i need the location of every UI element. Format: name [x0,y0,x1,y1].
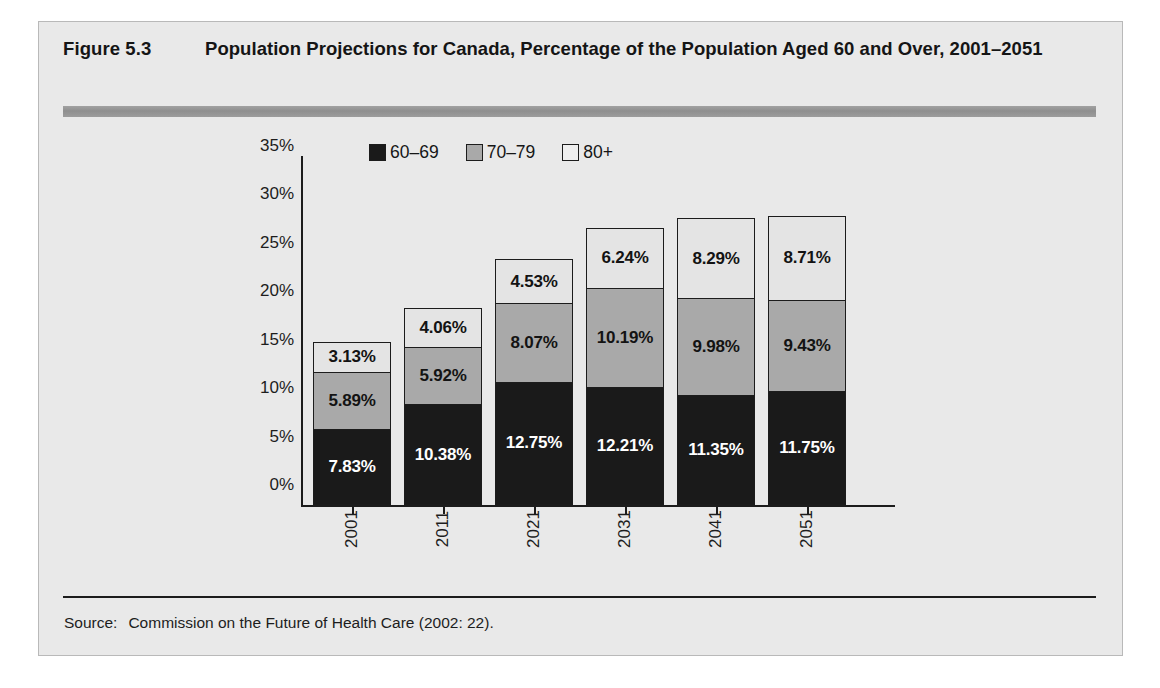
bar-value-label: 7.83% [328,457,375,477]
bar-segment: 10.38% [404,404,482,505]
y-axis-tick-label: 15% [260,330,294,350]
bar-segment: 8.71% [768,216,846,300]
bar-segment: 9.43% [768,300,846,391]
y-axis-line [301,156,303,505]
legend-swatch-icon [466,144,483,161]
bar-value-label: 4.06% [419,318,466,338]
bar-segment: 9.98% [677,298,755,395]
bar-segment: 3.13% [313,342,391,372]
legend-swatch-icon [369,144,386,161]
y-axis-tick-label: 30% [260,184,294,204]
x-axis-category-label: 2041 [706,510,726,548]
bar-value-label: 5.89% [328,391,375,411]
x-axis-category-label: 2051 [797,510,817,548]
y-axis-tick-label: 20% [260,281,294,301]
figure-screenshot: Figure 5.3 Population Projections for Ca… [0,0,1160,688]
bar-value-label: 10.19% [597,328,653,348]
legend-swatch-icon [562,144,579,161]
bar-value-label: 3.13% [328,347,375,367]
bar-segment: 5.89% [313,372,391,429]
legend-item-80+: 80+ [562,142,613,163]
y-axis-tick-label: 10% [260,378,294,398]
legend-label: 70–79 [487,142,536,163]
y-axis-tick-label: 35% [260,136,294,156]
bar-value-label: 8.29% [692,249,739,269]
chart-legend: 60–6970–7980+ [369,142,613,163]
bar-value-label: 11.35% [688,440,744,460]
bar-value-label: 8.71% [783,248,830,268]
x-axis-category-label: 2001 [342,510,362,548]
bar-segment: 4.53% [495,259,573,303]
x-axis-tick-mark [807,506,809,514]
bar-segment: 12.21% [586,387,664,505]
y-axis-tick-label: 25% [260,233,294,253]
bar-value-label: 6.24% [601,248,648,268]
x-axis-tick-mark [534,506,536,514]
source-label: Source: [64,614,117,632]
bar-segment: 4.06% [404,308,482,347]
bar-segment: 8.07% [495,303,573,381]
x-axis-tick-mark [716,506,718,514]
bar-value-label: 4.53% [510,272,557,292]
bar-value-label: 9.98% [692,337,739,357]
figure-panel: Figure 5.3 Population Projections for Ca… [38,21,1123,656]
bar-segment: 7.83% [313,429,391,505]
bar-segment: 12.75% [495,382,573,505]
x-axis-category-label: 2031 [615,510,635,548]
header-divider [63,106,1096,117]
footer-divider [63,596,1096,598]
source-note: Source: Commission on the Future of Heal… [64,614,494,632]
x-axis-tick-mark [443,506,445,514]
bar-value-label: 5.92% [419,366,466,386]
bar-value-label: 8.07% [510,333,557,353]
figure-number: Figure 5.3 [63,36,205,62]
bar-segment: 8.29% [677,218,755,298]
bar-value-label: 12.75% [506,433,562,453]
source-text: Commission on the Future of Health Care … [128,614,493,632]
bar-segment: 6.24% [586,228,664,288]
chart-area: 60–6970–7980+ 0%5%10%15%20%25%30%35% 7.8… [39,132,1124,602]
bar-value-label: 11.75% [779,438,835,458]
legend-label: 60–69 [390,142,439,163]
bar-value-label: 10.38% [415,445,471,465]
legend-item-70-79: 70–79 [466,142,536,163]
x-axis-category-label: 2011 [433,511,453,548]
y-axis-tick-label: 5% [269,427,294,447]
x-axis-tick-mark [352,506,354,514]
x-axis-tick-mark [625,506,627,514]
bar-segment: 10.19% [586,288,664,387]
bar-segment: 11.35% [677,395,755,505]
bar-value-label: 12.21% [597,436,653,456]
bar-segment: 5.92% [404,347,482,404]
plot-area: 0%5%10%15%20%25%30%35% 7.83%5.89%3.13%20… [301,166,879,505]
y-axis-tick-label: 0% [269,475,294,495]
bar-value-label: 9.43% [783,336,830,356]
x-axis-category-label: 2021 [524,510,544,548]
legend-item-60-69: 60–69 [369,142,439,163]
legend-label: 80+ [583,142,613,163]
x-axis-line [301,505,895,507]
figure-title: Population Projections for Canada, Perce… [205,36,1065,62]
bar-segment: 11.75% [768,391,846,505]
figure-header: Figure 5.3 Population Projections for Ca… [63,36,1103,62]
